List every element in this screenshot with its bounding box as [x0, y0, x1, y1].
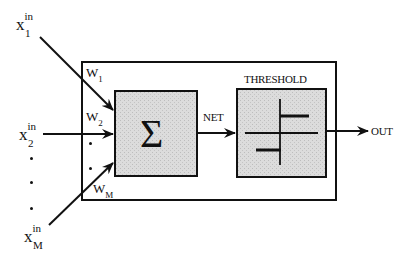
- input-label-2: xin2: [19, 124, 36, 143]
- weight-label-2: W2: [86, 110, 103, 127]
- ellipsis-dot: [89, 142, 92, 145]
- diagram-lines: [0, 0, 408, 255]
- threshold-label: THRESHOLD: [244, 74, 307, 85]
- ellipsis-dot: [30, 157, 33, 160]
- input-label-1: xin1: [16, 14, 33, 33]
- net-label: NET: [203, 112, 223, 123]
- weight-label-m: WM: [93, 182, 113, 199]
- input-label-m: xinM: [24, 226, 41, 245]
- neuron-diagram: xin1 xin2 xinM W1 W2 WM Σ NET THRESHOLD …: [0, 0, 408, 255]
- ellipsis-dot: [89, 167, 92, 170]
- output-label: OUT: [371, 126, 393, 137]
- ellipsis-dot: [30, 207, 33, 210]
- weight-label-1: W1: [86, 66, 103, 83]
- summation-symbol: Σ: [140, 114, 163, 154]
- ellipsis-dot: [30, 181, 33, 184]
